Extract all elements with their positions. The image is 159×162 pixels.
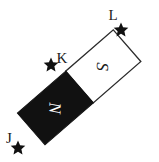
figure-canvas: S N J K L [0,0,159,162]
bar-magnet-figure: S N J K L [0,0,159,162]
point-j-label: J [6,130,12,146]
star-icon-j [11,141,26,155]
point-j: J [6,130,25,154]
magnet-south-label: S [93,62,112,71]
point-k-label: K [57,50,68,66]
point-k: K [44,50,68,71]
point-l-label: L [108,7,117,23]
magnet-north-label: N [45,101,64,115]
